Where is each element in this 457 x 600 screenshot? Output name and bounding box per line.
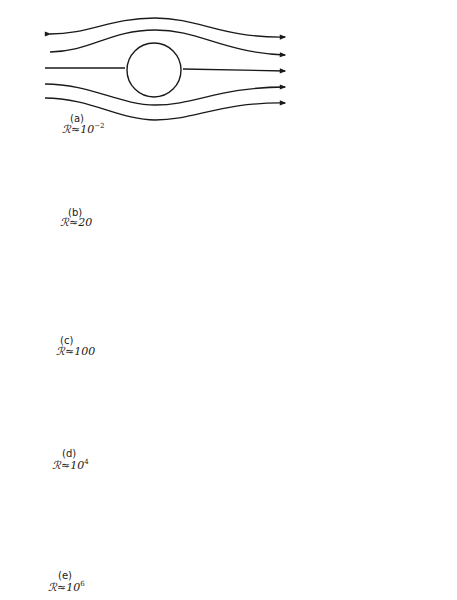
flow-diagram [0, 0, 457, 600]
re-base: 10 [70, 459, 84, 472]
re-exponent: 4 [84, 458, 88, 466]
re-symbol: ℛ [52, 459, 61, 472]
re-exponent: 6 [80, 580, 84, 588]
approx-sign: ≈ [57, 581, 66, 594]
re-symbol: ℛ [60, 216, 69, 229]
approx-sign: ≈ [69, 216, 78, 229]
cylinder-a [127, 43, 181, 97]
panel-b-reynolds: ℛ≈20 [60, 216, 92, 229]
re-base: 10 [80, 123, 94, 136]
re-symbol: ℛ [56, 345, 65, 358]
panel-a-reynolds: ℛ≈10−2 [62, 122, 105, 136]
panel-a [45, 18, 285, 120]
re-symbol: ℛ [62, 123, 71, 136]
approx-sign: ≈ [65, 345, 74, 358]
re-base: 20 [78, 216, 92, 229]
re-base: 10 [66, 581, 80, 594]
re-exponent: −2 [94, 122, 104, 130]
re-symbol: ℛ [48, 581, 57, 594]
approx-sign: ≈ [61, 459, 70, 472]
panel-e-reynolds: ℛ≈106 [48, 580, 85, 594]
panel-d-reynolds: ℛ≈104 [52, 458, 89, 472]
approx-sign: ≈ [71, 123, 80, 136]
panel-c-reynolds: ℛ≈100 [56, 345, 95, 358]
re-base: 100 [74, 345, 95, 358]
